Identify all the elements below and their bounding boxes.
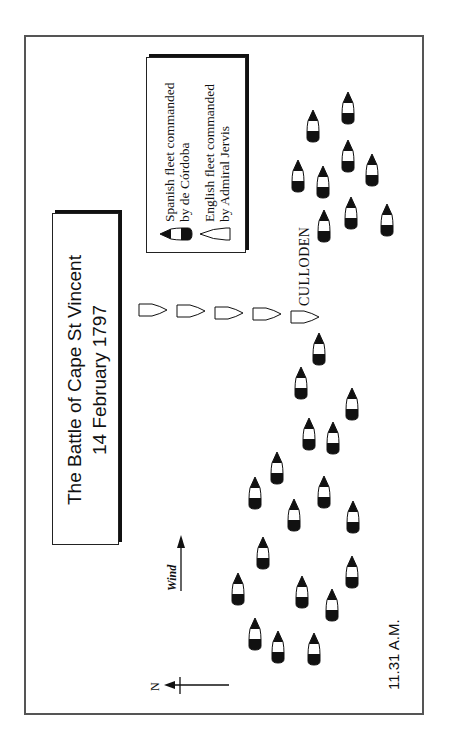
english-ship-icon <box>200 228 230 240</box>
spanish-ship-icon <box>307 110 319 142</box>
spanish-ship-icon <box>346 556 358 588</box>
spanish-ship-icon <box>318 476 330 508</box>
english-ship-icon <box>291 311 319 323</box>
spanish-ship-icon <box>366 154 378 186</box>
spanish-ship-icon <box>257 537 269 569</box>
spanish-ship-icon <box>160 228 192 240</box>
north-arrow-icon <box>164 677 229 694</box>
spanish-ship-icon <box>326 589 338 621</box>
spanish-ship-icon <box>342 92 354 124</box>
spanish-ship-icon <box>271 452 283 484</box>
spanish-fleet <box>232 92 393 665</box>
fleet-layer <box>0 0 449 755</box>
spanish-ship-icon <box>295 367 307 399</box>
spanish-ship-icon <box>346 388 358 420</box>
wind-arrow-icon <box>177 535 185 591</box>
spanish-ship-icon <box>381 204 393 236</box>
spanish-ship-icon <box>249 618 261 650</box>
spanish-ship-icon <box>232 573 244 605</box>
spanish-ship-icon <box>313 333 325 365</box>
english-ship-icon <box>253 308 281 320</box>
spanish-ship-icon <box>296 576 308 608</box>
english-ship-icon <box>139 304 167 316</box>
spanish-ship-icon <box>272 631 284 663</box>
spanish-ship-icon <box>249 477 261 509</box>
spanish-ship-icon <box>345 197 357 229</box>
spanish-ship-icon <box>327 422 339 454</box>
spanish-ship-icon <box>292 160 304 192</box>
english-ship-icon <box>177 305 205 317</box>
english-ship-icon <box>215 307 243 319</box>
battle-diagram: Spanish fleet commanded by de Córdoba En… <box>0 0 449 755</box>
english-fleet <box>139 304 319 323</box>
spanish-ship-icon <box>303 418 315 450</box>
spanish-ship-icon <box>318 210 330 242</box>
spanish-ship-icon <box>288 499 300 531</box>
spanish-ship-icon <box>342 140 354 172</box>
spanish-ship-icon <box>347 501 359 533</box>
spanish-ship-icon <box>317 166 329 198</box>
spanish-ship-icon <box>308 633 320 665</box>
